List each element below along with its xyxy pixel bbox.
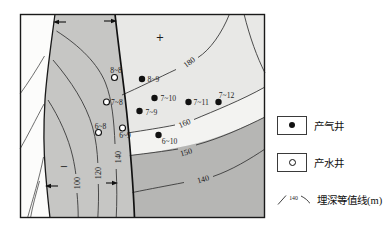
gas-well-dot-icon <box>289 122 295 128</box>
structural-low-sign: − <box>60 161 68 172</box>
contour-label-100: 100 <box>73 177 82 189</box>
well-label: 6~10 <box>162 137 178 146</box>
well-label: 7~10 <box>161 94 177 103</box>
water-well-dot <box>112 75 118 81</box>
gas-well-dot <box>136 108 142 114</box>
well-label: 7~9 <box>146 108 158 117</box>
contour-label-140-left: 140 <box>114 151 123 163</box>
legend: 产气井 产水井 140 埋深等值线(m) <box>277 116 389 227</box>
well-label: 8~8 <box>110 66 122 75</box>
water-well-dot <box>104 99 110 105</box>
gas-well-dot <box>139 76 145 82</box>
water-well-label: 产水井 <box>314 155 344 170</box>
contour-label-120-left: 120 <box>94 167 103 179</box>
contour-legend-label: 埋深等值线(m) <box>317 192 382 207</box>
contour-symbol-value: 140 <box>289 195 298 201</box>
well-label: 8~9 <box>148 75 160 84</box>
well-label: 6~8 <box>95 122 107 131</box>
legend-item-contour: 140 埋深等值线(m) <box>277 190 389 208</box>
contour-line-symbol: 140 <box>277 191 310 207</box>
well-label: 7~11 <box>194 98 209 107</box>
gas-well-dot <box>155 132 161 138</box>
gas-well-symbol <box>277 116 307 135</box>
well-label: 7~8 <box>111 98 123 107</box>
water-well-dot-icon <box>289 159 296 166</box>
gas-well-dot <box>215 99 221 105</box>
legend-item-water-well: 产水井 <box>277 153 389 171</box>
water-well-symbol <box>277 153 307 172</box>
structural-high-sign: + <box>156 32 164 43</box>
gas-well-label: 产气井 <box>314 118 344 133</box>
gas-well-dot <box>185 99 191 105</box>
well-label: 6~9 <box>119 131 131 140</box>
legend-item-gas-well: 产气井 <box>277 116 389 134</box>
well-label: 7~12 <box>219 91 235 100</box>
gas-well-dot <box>151 95 157 101</box>
